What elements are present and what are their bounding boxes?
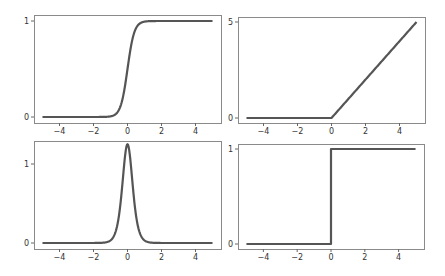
- axes-frame: [35, 142, 222, 250]
- y-tick-label: 0: [24, 113, 29, 122]
- data-line-sigmoid: [43, 21, 213, 117]
- y-tick-label: 0: [228, 240, 233, 249]
- subplot-sigmoid-derivative: −4−202401: [24, 142, 222, 263]
- x-tick-label: 4: [397, 127, 402, 136]
- x-tick-label: −2: [292, 127, 304, 136]
- x-tick-label: −4: [54, 253, 66, 262]
- x-tick-label: 0: [329, 127, 334, 136]
- x-tick-label: 0: [328, 253, 333, 262]
- x-tick-label: −2: [88, 253, 100, 262]
- x-tick-label: 2: [159, 127, 164, 136]
- y-tick-label: 0: [228, 114, 233, 123]
- x-tick-label: 2: [362, 253, 367, 262]
- data-line-step: [246, 149, 415, 244]
- x-tick-label: 0: [125, 253, 130, 262]
- x-tick-label: −2: [291, 253, 303, 262]
- y-tick-label: 5: [228, 18, 233, 27]
- subplot-relu: −4−202405: [228, 18, 426, 137]
- x-tick-label: 2: [159, 253, 164, 262]
- y-tick-label: 1: [24, 160, 29, 169]
- x-tick-label: 4: [193, 253, 198, 262]
- x-tick-label: −4: [54, 127, 66, 136]
- x-tick-label: −2: [88, 127, 100, 136]
- subplot-sigmoid: −4−202401: [24, 16, 222, 137]
- figure: −4−202401 −4−202405 −4−202401 −4−202401: [0, 0, 445, 276]
- axes-frame: [239, 18, 426, 124]
- y-tick-label: 0: [24, 239, 29, 248]
- x-tick-label: 2: [363, 127, 368, 136]
- subplot-step: −4−202401: [228, 145, 425, 263]
- x-tick-label: 4: [193, 127, 198, 136]
- y-tick-label: 1: [228, 145, 233, 154]
- x-tick-label: −4: [257, 253, 269, 262]
- x-tick-label: 4: [396, 253, 401, 262]
- data-line-sigmoid-derivative-peak: [43, 144, 213, 243]
- x-tick-label: 0: [125, 127, 130, 136]
- y-tick-label: 1: [24, 17, 29, 26]
- data-line-relu: [247, 22, 417, 118]
- x-tick-label: −4: [258, 127, 270, 136]
